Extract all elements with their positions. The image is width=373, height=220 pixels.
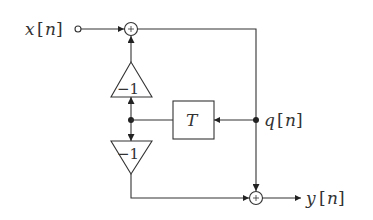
output-bracket-close: ] xyxy=(338,188,345,208)
input-symbol: x xyxy=(25,19,35,39)
output-label: y [ n ] xyxy=(305,188,345,208)
input-terminal xyxy=(75,26,81,32)
state-symbol: q xyxy=(264,110,275,130)
upper-gain-block: −1 xyxy=(111,62,152,98)
state-label: q [ n ] xyxy=(264,110,303,130)
output-index: n xyxy=(327,188,338,208)
output-bracket-open: [ xyxy=(319,188,326,208)
state-junction-dot xyxy=(253,117,259,123)
input-bracket-close: ] xyxy=(56,19,63,39)
state-bracket-close: ] xyxy=(296,110,303,130)
lower-gain-to-adder-wire xyxy=(131,174,249,198)
top-adder xyxy=(125,23,138,36)
input-bracket-open: [ xyxy=(37,19,44,39)
state-bracket-open: [ xyxy=(277,110,284,130)
delay-label: T xyxy=(186,110,199,130)
lower-gain-block: −1 xyxy=(111,141,152,174)
output-symbol: y xyxy=(305,188,316,208)
bottom-adder xyxy=(250,192,263,205)
lower-gain-label: −1 xyxy=(117,145,139,163)
state-index: n xyxy=(285,110,296,130)
input-index: n xyxy=(45,19,56,39)
delay-block: T xyxy=(173,101,214,139)
upper-gain-label: −1 xyxy=(117,80,139,98)
input-label: x [ n ] xyxy=(25,19,63,39)
